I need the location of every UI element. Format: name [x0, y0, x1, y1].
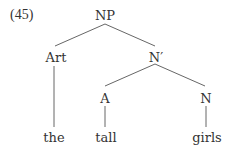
- node-art: Art: [46, 51, 67, 64]
- branch-nbar-n: [155, 64, 205, 86]
- node-np: NP: [95, 9, 115, 22]
- node-n: N: [200, 92, 211, 105]
- node-a: A: [100, 92, 109, 105]
- leaf-tall: tall: [95, 131, 116, 144]
- branch-np-nbar: [105, 24, 155, 46]
- leaf-girls: girls: [192, 131, 222, 144]
- node-nbar: N′: [149, 51, 163, 64]
- branch-nbar-a: [105, 64, 155, 86]
- branch-np-art: [55, 24, 105, 46]
- leaf-the: the: [43, 131, 64, 144]
- tree-branches: [0, 0, 232, 149]
